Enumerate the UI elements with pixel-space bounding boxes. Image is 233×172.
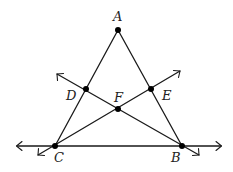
point-B <box>179 143 185 149</box>
label-D: D <box>65 88 77 103</box>
point-C <box>52 143 58 149</box>
label-C: C <box>54 150 64 165</box>
point-E <box>148 86 154 92</box>
point-F <box>115 106 121 112</box>
line-BD <box>57 74 199 155</box>
label-E: E <box>161 88 172 103</box>
label-A: A <box>112 9 122 24</box>
point-D <box>83 86 89 92</box>
label-B: B <box>170 150 181 165</box>
point-A <box>115 27 121 33</box>
geometry-diagram: A D E F C B <box>0 0 233 172</box>
line-CE <box>38 71 180 155</box>
label-F: F <box>113 90 124 105</box>
